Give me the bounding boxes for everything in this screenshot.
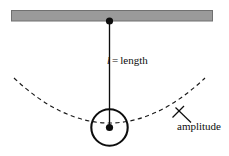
amplitude-tick-mark — [173, 106, 185, 118]
bob-center-dot — [106, 124, 113, 131]
pendulum-diagram-canvas — [0, 0, 229, 156]
pivot-point — [106, 17, 113, 24]
length-equals-sign: = — [111, 54, 120, 66]
pendulum-diagram: l=length amplitude — [0, 0, 229, 156]
amplitude-label: amplitude — [177, 121, 221, 132]
length-word: length — [120, 54, 148, 66]
length-label: l=length — [107, 55, 148, 66]
